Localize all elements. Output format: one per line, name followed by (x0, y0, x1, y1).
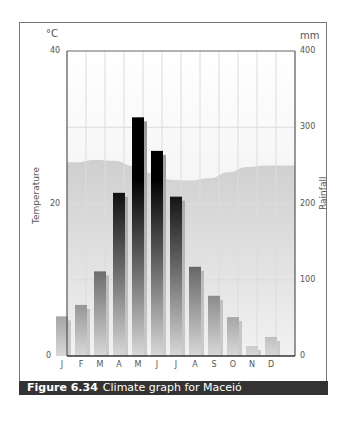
left-tick-40: 40 (50, 46, 60, 55)
rainfall-bar (151, 151, 163, 356)
left-tick-0: 0 (46, 351, 51, 360)
right-tick-200: 200 (300, 199, 315, 208)
month-label: J (56, 360, 68, 369)
month-label: S (208, 360, 220, 369)
right-axis-unit: mm (300, 30, 319, 41)
rainfall-bar (75, 305, 87, 356)
month-label: A (189, 360, 201, 369)
rainfall-bar (265, 337, 277, 356)
figure-caption: Figure 6.34Climate graph for Maceió (19, 381, 328, 395)
figure-title: Climate graph for Maceió (103, 381, 242, 394)
rainfall-bar (113, 193, 125, 356)
right-tick-300: 300 (300, 122, 315, 131)
right-tick-400: 400 (300, 46, 315, 55)
right-tick-0: 0 (300, 351, 305, 360)
left-axis-unit: °C (46, 28, 58, 39)
rainfall-bar (208, 296, 220, 356)
month-label: O (227, 360, 239, 369)
month-label: J (151, 360, 163, 369)
month-label: J (170, 360, 182, 369)
rainfall-bar (246, 346, 258, 356)
rainfall-bar (170, 197, 182, 356)
rainfall-bar (94, 271, 106, 356)
rainfall-bar (227, 317, 239, 356)
month-label: D (265, 360, 277, 369)
figure-number: Figure 6.34 (27, 381, 98, 394)
rainfall-bar (56, 316, 68, 356)
month-label: M (94, 360, 106, 369)
left-axis-title: Temperature (31, 167, 41, 224)
rainfall-bar (132, 117, 144, 356)
left-tick-20: 20 (50, 199, 60, 208)
month-label: M (132, 360, 144, 369)
month-label: A (113, 360, 125, 369)
right-axis-title: Rainfall (318, 177, 328, 210)
month-label: N (246, 360, 258, 369)
rainfall-bar (189, 267, 201, 356)
right-tick-100: 100 (300, 275, 315, 284)
month-label: F (75, 360, 87, 369)
